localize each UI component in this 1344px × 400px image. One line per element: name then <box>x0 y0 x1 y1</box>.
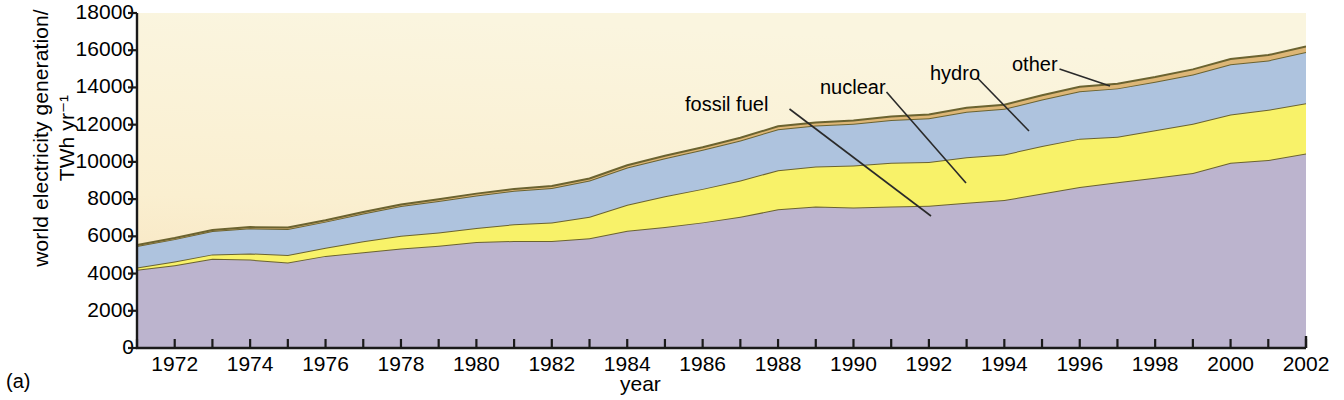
stacked-area-chart <box>0 0 1344 400</box>
series-label-fossil-fuel: fossil fuel <box>685 93 768 116</box>
series-label-hydro: hydro <box>930 62 980 85</box>
x-tick-label: 1990 <box>830 352 877 376</box>
x-tick-label: 1994 <box>981 352 1028 376</box>
x-tick-label: 1998 <box>1132 352 1179 376</box>
x-tick-label: 1980 <box>453 352 500 376</box>
x-tick-label: 1992 <box>906 352 953 376</box>
series-label-other: other <box>1012 53 1058 76</box>
x-tick-label: 2000 <box>1207 352 1254 376</box>
panel-label: (a) <box>6 370 30 393</box>
x-tick-label: 1972 <box>151 352 198 376</box>
x-tick-label: 1982 <box>528 352 575 376</box>
x-tick-label: 1976 <box>302 352 349 376</box>
series-label-nuclear: nuclear <box>820 76 886 99</box>
x-tick-label: 1996 <box>1056 352 1103 376</box>
figure-panel: world electricity generation/ TWh yr⁻¹ 0… <box>0 0 1344 400</box>
x-tick-label: 1986 <box>679 352 726 376</box>
x-tick-label: 1974 <box>227 352 274 376</box>
x-tick-label: 1988 <box>755 352 802 376</box>
x-tick-label: 1978 <box>378 352 425 376</box>
x-axis-title: year <box>620 372 661 396</box>
x-tick-label: 2002 <box>1283 352 1330 376</box>
